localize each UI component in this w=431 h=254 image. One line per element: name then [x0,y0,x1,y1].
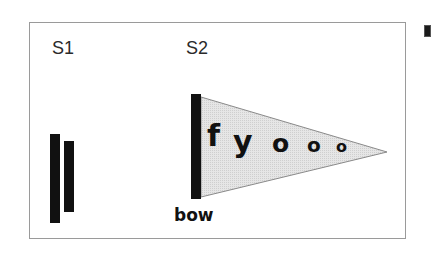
s1-short-bar [64,141,74,212]
pennant-letter-o-medium: o [307,135,321,155]
s1-tall-bar [50,134,60,223]
pennant-letter-o-large: o [272,131,289,156]
s2-mast [191,94,201,199]
clipped-corner-icon [424,25,431,37]
pennant-letter-y: y [233,127,253,157]
pennant-letter-f: f [207,121,220,151]
stage-label-s1: S1 [52,39,74,57]
stage-label-s2: S2 [186,39,208,57]
bow-label: bow [174,207,214,224]
pennant-letter-o-small: o [336,139,347,155]
